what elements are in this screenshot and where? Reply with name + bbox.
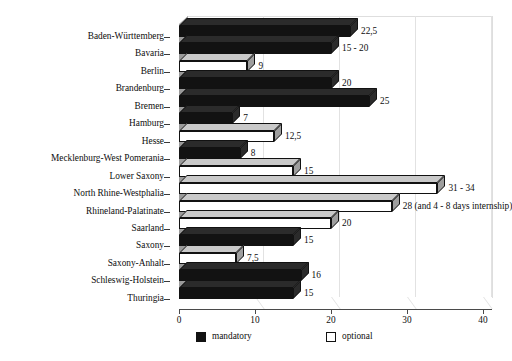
category-tick (164, 54, 170, 55)
bar-value-label: 16 (312, 271, 321, 280)
legend-item-mandatory[interactable]: mandatory (196, 332, 252, 342)
bar-top-face (179, 227, 301, 235)
legend-item-optional[interactable]: optional (326, 332, 372, 342)
plot-area: 22,515 - 2092025712,581531 - 3428 (and 4… (170, 16, 492, 312)
bar-top-face (179, 262, 309, 270)
bar-top-face (179, 88, 377, 96)
bar-mandatory (179, 70, 331, 81)
x-tick-label: 10 (250, 316, 259, 325)
legend-swatch-optional (326, 332, 336, 342)
category-tick (164, 246, 170, 247)
x-tick-label: 0 (177, 316, 182, 325)
bar-optional (179, 53, 247, 64)
bar-value-label: 28 (and 4 - 8 days internship) (403, 202, 512, 211)
bar-mandatory (179, 105, 232, 116)
bar-optional (179, 245, 236, 256)
category-label: Saxony-Anhalt (108, 259, 164, 268)
bar-top-face (179, 193, 400, 201)
x-tick-label: 30 (402, 316, 411, 325)
category-label: Schleswig-Holstein (91, 276, 164, 285)
bar-value-label: 12,5 (285, 132, 301, 141)
category-label: Saxony (136, 241, 164, 250)
bar-top-face (179, 123, 282, 131)
bar-mandatory (179, 88, 369, 99)
category-label: Brandenburg (116, 84, 164, 93)
category-label: Mecklenburg-West Pomerania (51, 154, 164, 163)
category-label: Hesse (142, 137, 164, 146)
x-tick (407, 309, 408, 314)
category-label: Saarland (131, 224, 164, 233)
x-axis-line (179, 309, 492, 310)
bar-mandatory (179, 262, 301, 273)
category-label: Rhineland-Palatinate (86, 207, 164, 216)
category-tick (164, 194, 170, 195)
category-tick (164, 72, 170, 73)
bar-value-label: 15 (304, 289, 313, 298)
category-tick (164, 159, 170, 160)
category-label: Bavaria (135, 49, 164, 58)
category-tick (164, 264, 170, 265)
bar-top-face (179, 158, 301, 166)
bar-optional (179, 175, 437, 186)
x-tick (255, 309, 256, 314)
bar-optional (179, 158, 293, 169)
bar-value-label: 31 - 34 (448, 184, 474, 193)
category-label: Thuringia (127, 294, 164, 303)
legend-swatch-mandatory (196, 332, 206, 342)
bar-top-face (179, 105, 240, 113)
bar-top-face (179, 53, 255, 61)
bar-value-label: 20 (342, 219, 351, 228)
bar-optional (179, 123, 274, 134)
category-tick (164, 177, 170, 178)
bar-top-face (179, 35, 339, 43)
bar-value-label: 22,5 (361, 27, 377, 36)
bar-top-face (179, 175, 445, 183)
category-tick (164, 229, 170, 230)
category-tick (164, 37, 170, 38)
bar-mandatory (179, 18, 350, 29)
category-tick (164, 142, 170, 143)
bar-value-label: 15 (304, 236, 313, 245)
gridline (415, 16, 416, 297)
gridline (339, 16, 340, 297)
legend-label: mandatory (212, 332, 252, 341)
bar-mandatory (179, 280, 293, 291)
category-tick (164, 212, 170, 213)
category-tick (164, 299, 170, 300)
legend-label: optional (342, 332, 372, 341)
category-tick (164, 89, 170, 90)
x-tick (331, 309, 332, 314)
bar-value-label: 15 - 20 (342, 44, 368, 53)
bar-top-face (179, 280, 301, 288)
category-label: Baden-Württemberg (88, 32, 164, 41)
category-label: North Rhine-Westphalia (74, 189, 164, 198)
bar-value-label: 25 (380, 97, 389, 106)
category-label: Berlin (141, 67, 164, 76)
bar-mandatory (179, 35, 331, 46)
category-label: Lower Saxony (110, 172, 164, 181)
bar-mandatory (179, 140, 240, 151)
bar-top-face (179, 140, 248, 148)
category-tick (164, 107, 170, 108)
x-tick-label: 40 (478, 316, 487, 325)
gridline-floor-segment (483, 297, 493, 309)
category-label: Bremen (135, 102, 164, 111)
x-tick (483, 309, 484, 314)
x-tick-label: 20 (326, 316, 335, 325)
bar-optional (179, 193, 392, 204)
category-label: Hamburg (129, 119, 164, 128)
category-tick (164, 124, 170, 125)
bar-top-face (179, 18, 358, 26)
bar-mandatory (179, 227, 293, 238)
bar-front-face (179, 288, 293, 299)
bar-optional (179, 210, 331, 221)
gridline (491, 16, 492, 297)
bar-top-face (179, 210, 339, 218)
category-tick (164, 281, 170, 282)
bar-top-face (179, 70, 339, 78)
x-tick (179, 309, 180, 314)
bar-top-face (179, 245, 244, 253)
gridline (263, 16, 264, 297)
